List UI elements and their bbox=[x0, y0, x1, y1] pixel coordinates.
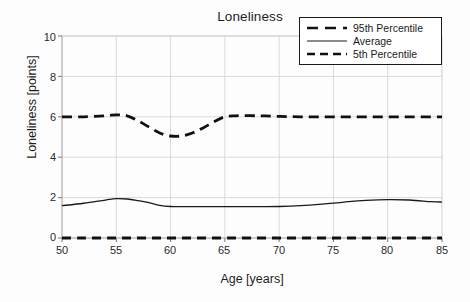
legend-item-95th-percentile: 95th Percentile bbox=[305, 21, 436, 34]
chart-legend: 95th Percentile Average 5th Percentile bbox=[299, 17, 442, 65]
dashed-line-icon bbox=[305, 48, 349, 60]
gridlines bbox=[58, 36, 442, 242]
legend-item-average: Average bbox=[305, 34, 436, 47]
legend-label-5th-percentile: 5th Percentile bbox=[349, 48, 417, 60]
axis-spines bbox=[62, 36, 442, 238]
legend-label-95th-percentile: 95th Percentile bbox=[349, 22, 423, 34]
data-series-group bbox=[62, 115, 442, 238]
legend-item-5th-percentile: 5th Percentile bbox=[305, 47, 436, 60]
series-line-95th-percentile bbox=[62, 115, 442, 137]
legend-label-average: Average bbox=[349, 35, 392, 47]
series-line-average bbox=[62, 199, 442, 207]
solid-line-icon bbox=[305, 35, 349, 47]
chart-figure: Loneliness Loneliness [points] 10 8 6 4 … bbox=[0, 0, 470, 302]
dashed-line-icon bbox=[305, 22, 349, 34]
